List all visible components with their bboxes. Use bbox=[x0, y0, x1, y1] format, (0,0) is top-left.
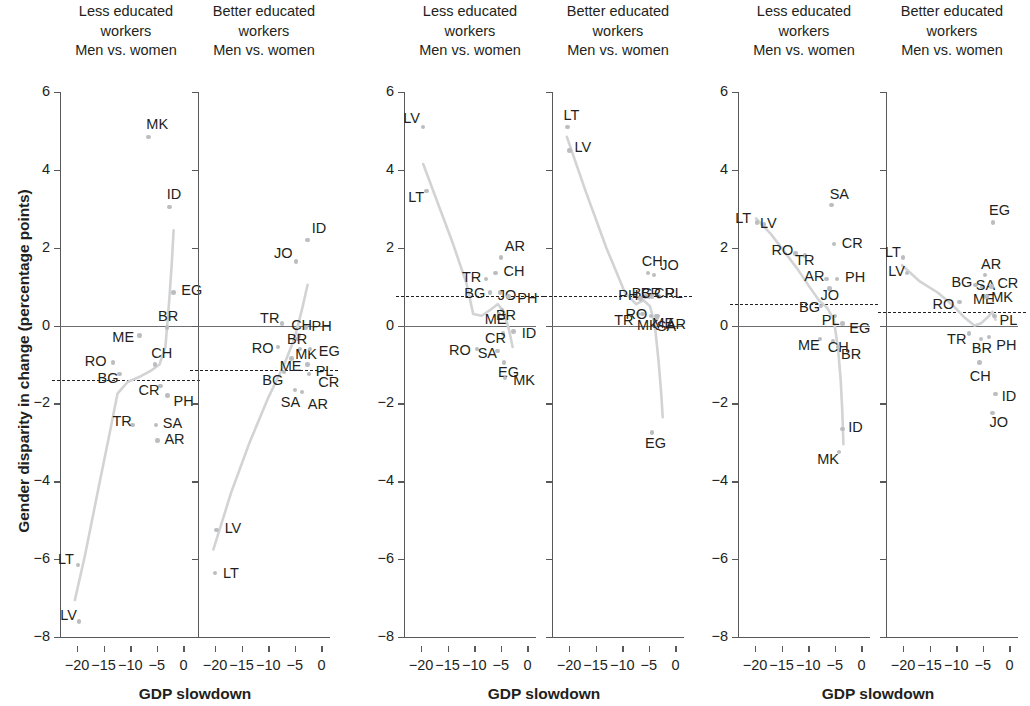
point-label-CH: CH bbox=[970, 369, 991, 384]
data-point-CR bbox=[832, 242, 836, 246]
point-label-CH: CH bbox=[151, 346, 172, 361]
point-label-EG: EG bbox=[849, 321, 870, 336]
y-tick-label--2: −2 bbox=[356, 394, 394, 410]
point-label-ID: ID bbox=[522, 326, 537, 341]
point-label-ID: ID bbox=[167, 187, 182, 202]
panel-p1: Less educatedworkersMen vs. women6420−2−… bbox=[60, 0, 192, 706]
y-axis-title: Gender disparity in change (percentage p… bbox=[15, 101, 33, 621]
data-point-AR bbox=[300, 390, 304, 394]
panel-p2: Better educatedworkersMen vs. women−20−1… bbox=[198, 0, 330, 706]
point-label-LV: LV bbox=[60, 608, 77, 623]
point-label-CH: CH bbox=[504, 264, 525, 279]
data-point-EG bbox=[840, 321, 844, 325]
trend-line-p4 bbox=[552, 0, 704, 706]
point-label-LT: LT bbox=[885, 245, 901, 260]
point-label-LT: LT bbox=[223, 566, 239, 581]
data-point-CH bbox=[977, 360, 981, 364]
trend-line-p5 bbox=[738, 0, 890, 706]
point-label-RO: RO bbox=[85, 354, 107, 369]
y-tick-label-0: 0 bbox=[690, 317, 728, 333]
point-label-CR: CR bbox=[318, 375, 339, 390]
point-label-JO: JO bbox=[821, 288, 840, 303]
point-label-ID: ID bbox=[848, 420, 863, 435]
data-point-SA bbox=[293, 388, 297, 392]
point-label-LV: LV bbox=[575, 140, 592, 155]
point-label-TR: TR bbox=[260, 311, 279, 326]
point-label-EG: EG bbox=[645, 436, 666, 451]
data-point-ID bbox=[840, 427, 844, 431]
point-label-CR: CR bbox=[139, 383, 160, 398]
y-tick-label-6: 6 bbox=[356, 83, 394, 99]
data-point-CH bbox=[493, 271, 497, 275]
point-label-PH: PH bbox=[517, 291, 537, 306]
point-label-ME: ME bbox=[112, 330, 134, 345]
data-point-LV bbox=[567, 148, 571, 152]
x-axis-title-group-2: GDP slowdown bbox=[404, 685, 684, 703]
data-point-PH bbox=[506, 294, 510, 298]
point-label-PH: PH bbox=[312, 319, 332, 334]
y-tick-label-4: 4 bbox=[690, 161, 728, 177]
data-point-LT bbox=[565, 125, 569, 129]
point-label-BG: BG bbox=[799, 300, 820, 315]
x-axis-title-group-3: GDP slowdown bbox=[738, 685, 1018, 703]
point-label-LT: LT bbox=[563, 108, 579, 123]
trend-line-p6 bbox=[886, 0, 1030, 706]
data-point-ID bbox=[993, 392, 997, 396]
data-point-PH bbox=[165, 393, 169, 397]
y-tick-label--6: −6 bbox=[12, 550, 50, 566]
point-label-AR: AR bbox=[804, 269, 824, 284]
point-label-SA: SA bbox=[281, 395, 300, 410]
y-tick-label--2: −2 bbox=[12, 394, 50, 410]
data-point-AR bbox=[824, 277, 828, 281]
y-tick-label--6: −6 bbox=[356, 550, 394, 566]
data-point-LT bbox=[755, 220, 759, 224]
point-label-TR: TR bbox=[947, 332, 966, 347]
panel-p4: Better educatedworkersMen vs. women−20−1… bbox=[552, 0, 684, 706]
point-label-ME: ME bbox=[485, 312, 507, 327]
point-label-LT: LT bbox=[408, 190, 424, 205]
y-tick-label-0: 0 bbox=[12, 317, 50, 333]
point-label-SA: SA bbox=[830, 187, 849, 202]
point-label-AR: AR bbox=[308, 397, 328, 412]
data-point-AR bbox=[499, 255, 503, 259]
point-label-MK: MK bbox=[513, 373, 535, 388]
point-label-BG: BG bbox=[98, 371, 119, 386]
point-label-RO: RO bbox=[252, 341, 274, 356]
point-label-RO: RO bbox=[932, 297, 954, 312]
data-point-LT bbox=[424, 189, 428, 193]
point-label-BG: BG bbox=[951, 275, 972, 290]
point-label-PL: PL bbox=[822, 313, 840, 328]
point-label-RO: RO bbox=[771, 243, 793, 258]
y-tick-label--8: −8 bbox=[690, 628, 728, 644]
data-point-RO bbox=[957, 300, 961, 304]
panel-p5: Less educatedworkersMen vs. women6420−2−… bbox=[738, 0, 870, 706]
point-label-JO: JO bbox=[274, 246, 293, 261]
y-tick-label-6: 6 bbox=[12, 83, 50, 99]
point-label-LT: LT bbox=[735, 211, 751, 226]
point-label-PH: PH bbox=[618, 288, 638, 303]
data-point-LV bbox=[77, 619, 81, 623]
point-label-ID: ID bbox=[312, 221, 327, 236]
panel-p3: Less educatedworkersMen vs. women6420−2−… bbox=[404, 0, 536, 706]
data-point-PL bbox=[305, 362, 309, 366]
data-point-EG bbox=[991, 220, 995, 224]
data-point-ID bbox=[167, 205, 171, 209]
point-label-AR: AR bbox=[981, 257, 1001, 272]
point-label-SA: SA bbox=[478, 346, 497, 361]
data-point-EG bbox=[171, 290, 175, 294]
point-label-JO: JO bbox=[660, 258, 679, 273]
y-tick-label-4: 4 bbox=[12, 161, 50, 177]
data-point-RO bbox=[111, 360, 115, 364]
point-label-AR: AR bbox=[164, 432, 184, 447]
point-label-ME: ME bbox=[798, 338, 820, 353]
point-label-BG: BG bbox=[262, 373, 283, 388]
x-axis-title-group-1: GDP slowdown bbox=[60, 685, 330, 703]
y-tick-label--2: −2 bbox=[690, 394, 728, 410]
point-label-MK: MK bbox=[817, 452, 839, 467]
point-label-EG: EG bbox=[319, 344, 340, 359]
data-point-PH bbox=[638, 296, 642, 300]
trend-line-p1 bbox=[60, 0, 212, 706]
point-label-JO: JO bbox=[989, 415, 1008, 430]
point-label-CR: CR bbox=[997, 276, 1018, 291]
